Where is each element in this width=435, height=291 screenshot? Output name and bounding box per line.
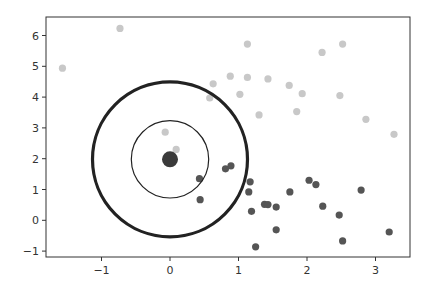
- scatter-point: [264, 75, 271, 82]
- scatter-point: [362, 116, 369, 123]
- axes-frame: [46, 17, 410, 257]
- scatter-point: [245, 188, 252, 195]
- scatter-point: [336, 211, 343, 218]
- scatter-point: [236, 91, 243, 98]
- y-tick-label: 3: [32, 122, 39, 135]
- scatter-point: [255, 111, 262, 118]
- scatter-point: [305, 177, 312, 184]
- scatter-point: [197, 196, 204, 203]
- query-point-marker: [162, 151, 178, 167]
- scatter-point: [286, 82, 293, 89]
- y-tick-label: 0: [32, 214, 39, 227]
- scatter-point: [59, 65, 66, 72]
- scatter-point: [162, 129, 169, 136]
- y-tick-label: 4: [32, 91, 39, 104]
- scatter-point: [358, 187, 365, 194]
- x-tick-label: −1: [93, 264, 109, 277]
- scatter-point: [319, 203, 326, 210]
- x-tick-label: 3: [372, 264, 379, 277]
- y-tick-label: 2: [32, 153, 39, 166]
- y-axis-ticks: −10123456: [23, 30, 46, 259]
- scatter-point: [286, 188, 293, 195]
- y-tick-label: 5: [32, 60, 39, 73]
- y-tick-label: 6: [32, 30, 39, 43]
- scatter-point: [116, 25, 123, 32]
- scatter-point: [312, 181, 319, 188]
- scatter-point: [173, 146, 180, 153]
- x-tick-label: 2: [304, 264, 311, 277]
- y-tick-label: 1: [32, 184, 39, 197]
- scatter-point: [273, 226, 280, 233]
- scatter-point: [299, 90, 306, 97]
- scatter-point: [318, 49, 325, 56]
- data-points: [59, 25, 398, 251]
- scatter-chart: −10123 −10123456: [0, 0, 435, 291]
- scatter-point: [227, 162, 234, 169]
- scatter-point: [252, 243, 259, 250]
- scatter-point: [247, 178, 254, 185]
- scatter-point: [339, 237, 346, 244]
- x-axis-ticks: −10123: [93, 257, 379, 277]
- scatter-point: [227, 73, 234, 80]
- scatter-point: [336, 92, 343, 99]
- y-tick-label: −1: [23, 245, 39, 258]
- scatter-point: [244, 41, 251, 48]
- scatter-point: [386, 228, 393, 235]
- scatter-point: [390, 131, 397, 138]
- scatter-point: [264, 201, 271, 208]
- scatter-point: [339, 41, 346, 48]
- scatter-point: [273, 203, 280, 210]
- scatter-point: [244, 74, 251, 81]
- x-tick-label: 1: [235, 264, 242, 277]
- scatter-point: [293, 108, 300, 115]
- scatter-point: [248, 208, 255, 215]
- x-tick-label: 0: [167, 264, 174, 277]
- scatter-point: [210, 80, 217, 87]
